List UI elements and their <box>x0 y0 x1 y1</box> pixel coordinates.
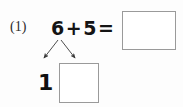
plus-operator-icon: + <box>65 17 83 39</box>
equation-expression: 6+5= <box>51 17 115 39</box>
decomposition-left-part: 1 <box>38 70 53 96</box>
answer-input-box[interactable] <box>122 11 176 50</box>
problem-number-label: (1) <box>10 18 26 36</box>
equals-operator-icon: = <box>97 17 115 39</box>
decomposition-right-part-box[interactable] <box>59 63 99 103</box>
second-addend: 5 <box>83 17 97 39</box>
arrow-down-left-icon <box>44 40 58 58</box>
arrow-down-right-icon <box>61 40 75 58</box>
math-worksheet-problem: (1) 6+5= 1 <box>0 0 183 107</box>
first-addend: 6 <box>51 17 65 39</box>
